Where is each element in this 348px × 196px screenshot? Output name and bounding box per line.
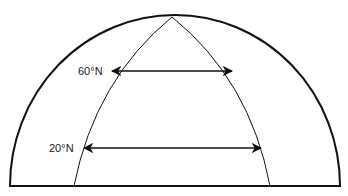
meridian-right — [172, 17, 270, 186]
label-20n: 20°N — [49, 142, 74, 154]
hemisphere-outline — [10, 15, 340, 186]
meridian-left — [74, 17, 172, 186]
hemisphere-diagram: 60°N 20°N — [0, 0, 348, 196]
label-60n: 60°N — [78, 65, 103, 77]
